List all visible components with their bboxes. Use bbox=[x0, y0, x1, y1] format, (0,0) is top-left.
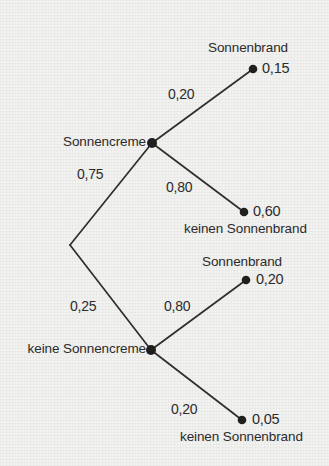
node-leaf-keine-sonnencreme-sonnenbrand bbox=[242, 276, 251, 285]
edge-probability-keine-sonnencreme-kein-sonnenbrand: 0,20 bbox=[171, 402, 197, 416]
node-sonnencreme bbox=[147, 138, 157, 148]
node-keine-sonnencreme bbox=[146, 345, 156, 355]
outcome-label-sonnencreme-kein-sonnenbrand: keinen Sonnenbrand bbox=[184, 222, 307, 236]
leaf-value-keine-sonnencreme-kein-sonnenbrand: 0,05 bbox=[252, 412, 279, 427]
leaf-value-sonnencreme-kein-sonnenbrand: 0,60 bbox=[253, 204, 280, 219]
tree-diagram-page: Sonnencreme keine Sonnencreme 0,75 0,25 … bbox=[0, 0, 329, 466]
edge-sonnencreme-kein-sonnenbrand bbox=[152, 143, 244, 212]
edge-probability-keine-sonnencreme-sonnenbrand: 0,80 bbox=[164, 299, 190, 313]
node-label-keine-sonnencreme: keine Sonnencreme bbox=[28, 342, 146, 356]
edge-probability-sonnencreme: 0,75 bbox=[77, 167, 103, 181]
edge-probability-sonnencreme-sonnenbrand: 0,20 bbox=[168, 87, 194, 101]
node-label-sonnencreme: Sonnencreme bbox=[63, 135, 146, 149]
leaf-value-sonnencreme-sonnenbrand: 0,15 bbox=[262, 61, 289, 76]
outcome-label-keine-sonnencreme-kein-sonnenbrand: keinen Sonnenbrand bbox=[180, 430, 303, 444]
edge-keine-sonnencreme-sonnenbrand bbox=[151, 280, 246, 350]
edge-root-sonnencreme bbox=[70, 143, 152, 245]
node-leaf-sonnencreme-sonnenbrand bbox=[249, 65, 258, 74]
outcome-label-sonnencreme-sonnenbrand: Sonnenbrand bbox=[208, 41, 288, 55]
node-leaf-sonnencreme-kein-sonnenbrand bbox=[240, 208, 249, 217]
node-leaf-keine-sonnencreme-kein-sonnenbrand bbox=[238, 416, 247, 425]
edge-probability-keine-sonnencreme: 0,25 bbox=[70, 299, 96, 313]
outcome-label-keine-sonnencreme-sonnenbrand: Sonnenbrand bbox=[202, 255, 282, 269]
edge-sonnencreme-sonnenbrand bbox=[152, 69, 253, 143]
edge-probability-sonnencreme-kein-sonnenbrand: 0,80 bbox=[166, 180, 192, 194]
leaf-value-keine-sonnencreme-sonnenbrand: 0,20 bbox=[256, 272, 283, 287]
